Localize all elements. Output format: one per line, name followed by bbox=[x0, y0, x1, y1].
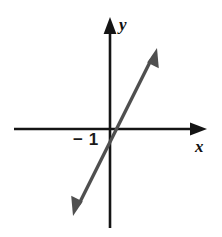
x-axis-label: x bbox=[195, 138, 204, 155]
y-axis-arrowhead-icon bbox=[104, 17, 117, 34]
y-axis-label: y bbox=[119, 16, 127, 33]
coordinate-graph-figure: y x − 1 bbox=[0, 0, 222, 237]
graph-canvas bbox=[0, 0, 222, 237]
x-axis-arrowhead-icon bbox=[190, 123, 207, 136]
x-intercept-label: − 1 bbox=[73, 131, 99, 148]
y-axis bbox=[104, 17, 117, 228]
